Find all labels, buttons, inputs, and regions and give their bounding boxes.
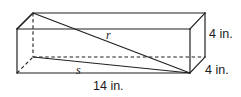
depth-dimension-label: 4 in. (205, 64, 229, 77)
prism-figure: 4 in. 4 in. 14 in. r s (0, 0, 241, 97)
length-dimension-label: 14 in. (93, 80, 124, 93)
hidden-edge-bottom-left-depth (17, 57, 33, 73)
space-diagonal-r-label: r (106, 29, 111, 41)
height-dimension-label: 4 in. (209, 28, 233, 41)
edge-bottom-right-depth (190, 57, 205, 73)
base-diagonal-s-label: s (76, 64, 81, 76)
edge-top-right-depth (190, 13, 205, 29)
base-diagonal-s-line (33, 57, 190, 73)
triangle-edge-back-left (17, 13, 33, 29)
diagonals-group (17, 13, 190, 73)
space-diagonal-r-line (33, 13, 190, 73)
